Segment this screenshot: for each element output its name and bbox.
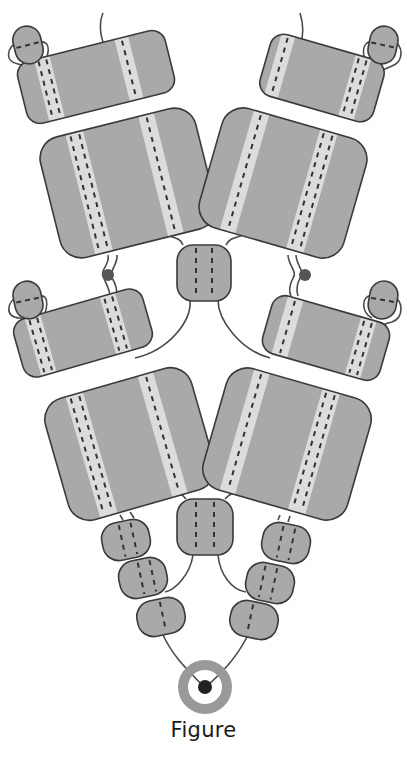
block-L3c — [134, 594, 188, 639]
block-R3b — [243, 559, 298, 606]
capsule-R2-cap — [366, 279, 400, 321]
base-ring — [183, 665, 227, 709]
wire — [218, 300, 270, 358]
wire — [288, 255, 294, 296]
wire — [288, 516, 290, 522]
block-C2 — [177, 499, 233, 555]
domain-blocks — [10, 26, 394, 643]
block-R1-big — [193, 101, 372, 265]
block-L3a — [99, 516, 154, 563]
block-L3b — [116, 554, 171, 601]
joint-dot-L-joint — [102, 269, 114, 281]
figure-caption: Figure — [0, 718, 407, 742]
block-R3c — [227, 597, 281, 642]
wire — [165, 555, 193, 592]
block-L1-big — [35, 102, 221, 265]
diagram-canvas — [0, 0, 407, 757]
block-R3a — [259, 519, 314, 566]
wire — [278, 515, 280, 520]
ring-center-dot — [198, 680, 212, 694]
joint-dot-R-joint — [299, 269, 311, 281]
wire — [218, 555, 246, 592]
wire — [130, 512, 134, 518]
block-C1 — [177, 245, 231, 301]
wire — [120, 515, 123, 520]
